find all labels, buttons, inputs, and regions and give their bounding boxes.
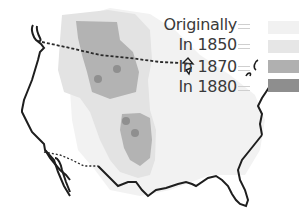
atlantic-coastline [258,80,280,135]
range-1880-dot [131,129,139,137]
great-lakes-outline [246,60,258,76]
us-map [0,0,302,216]
range-1880-dot [113,65,121,73]
range-1880-dot [94,75,102,83]
range-1880-dot [122,117,130,125]
